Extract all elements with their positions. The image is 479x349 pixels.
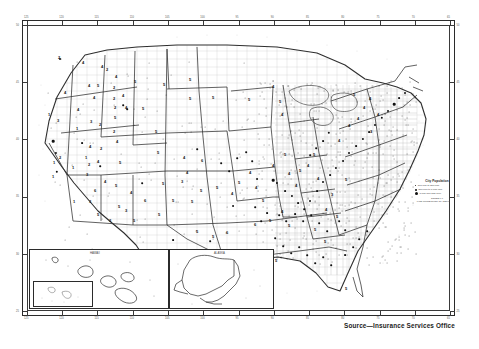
- city-population-dot: [76, 117, 77, 118]
- city-population-dot: [306, 189, 307, 190]
- city-population-dot: [266, 108, 267, 109]
- city-population-dot: [362, 198, 363, 199]
- zone-number: 4: [231, 192, 233, 196]
- legend-box: City Population 100,000 to 500,000 500,0…: [415, 179, 450, 213]
- city-population-dot: [405, 201, 406, 202]
- city-population-dot: [371, 194, 372, 195]
- city-population-dot: [335, 101, 336, 102]
- zone-number: 3: [89, 200, 91, 204]
- city-population-dot: [387, 136, 388, 137]
- city-population-dot: [391, 135, 392, 136]
- zone-number: 5: [212, 96, 214, 100]
- city-population-dot: [381, 95, 382, 96]
- legend-label-large: 1,000,000 and over: [419, 192, 441, 195]
- city-population-dot: [251, 160, 253, 162]
- city-population-dot: [404, 92, 406, 94]
- city-population-dot: [272, 80, 273, 81]
- city-population-dot: [308, 204, 309, 205]
- city-population-dot: [226, 232, 227, 233]
- city-population-dot: [278, 214, 280, 216]
- graticule-label-top-2: 115: [95, 16, 99, 19]
- city-population-dot: [327, 243, 328, 244]
- city-population-dot: [272, 179, 275, 182]
- city-population-dot: [321, 216, 322, 217]
- city-population-dot: [291, 130, 292, 131]
- city-population-dot: [290, 179, 291, 180]
- city-population-dot: [382, 206, 383, 207]
- city-population-dot: [283, 182, 284, 183]
- city-population-dot: [332, 197, 333, 198]
- zone-number: 5: [157, 151, 159, 155]
- city-population-dot: [350, 181, 351, 182]
- city-population-dot: [258, 160, 259, 161]
- city-population-dot: [306, 143, 307, 144]
- graticule-label-top-1: 120: [59, 16, 63, 19]
- city-population-dot: [375, 105, 376, 106]
- city-population-dot: [387, 242, 388, 243]
- city-population-dot: [133, 109, 134, 110]
- city-population-dot: [360, 85, 361, 86]
- city-population-dot: [281, 134, 282, 135]
- city-population-dot: [389, 130, 390, 131]
- city-population-dot: [384, 121, 385, 122]
- city-population-dot: [382, 115, 383, 116]
- city-population-dot: [367, 125, 368, 126]
- city-population-dot: [341, 117, 342, 118]
- city-population-dot: [83, 104, 84, 105]
- graticule-label-right-3: 35: [457, 195, 460, 198]
- city-population-dot: [370, 188, 371, 189]
- city-population-dot: [73, 132, 74, 133]
- graticule-label-bottom-1: 120: [59, 317, 63, 320]
- zone-number: 5: [172, 199, 174, 203]
- zone-number: 5: [269, 219, 271, 223]
- city-population-dot: [144, 117, 145, 118]
- city-population-dot: [287, 183, 288, 184]
- city-population-dot: [146, 77, 147, 78]
- city-population-dot: [300, 202, 301, 203]
- graticule-label-bottom-0: 125: [24, 317, 28, 320]
- zone-number: 4: [249, 171, 251, 175]
- city-population-dot: [373, 153, 374, 154]
- city-population-dot: [297, 202, 299, 204]
- city-population-dot: [326, 154, 327, 155]
- graticule-label-top-12: 65: [447, 16, 450, 19]
- city-population-dot: [276, 246, 277, 247]
- city-population-dot: [384, 141, 385, 142]
- city-population-dot: [191, 214, 192, 215]
- inset-hawaii-sub: [33, 281, 93, 307]
- city-population-dot: [277, 214, 278, 215]
- city-population-dot: [279, 239, 280, 240]
- city-population-dot: [325, 215, 326, 216]
- city-population-dot: [335, 248, 336, 249]
- city-population-dot: [294, 213, 296, 215]
- graticule-label-bottom-8: 85: [306, 317, 309, 320]
- city-population-dot: [236, 99, 237, 100]
- zone-number: 5: [345, 178, 347, 182]
- zone-number: 6: [144, 199, 146, 203]
- graticule-label-top-3: 110: [130, 16, 134, 19]
- city-population-dot: [274, 237, 276, 239]
- inset-alaska: ALASKA: [169, 249, 274, 309]
- city-population-dot: [213, 216, 214, 217]
- city-population-dot: [219, 159, 220, 160]
- city-population-dot: [295, 205, 296, 206]
- zone-number: 4: [82, 61, 84, 65]
- city-population-dot: [367, 248, 368, 249]
- city-population-dot: [309, 184, 310, 185]
- city-population-dot: [407, 169, 408, 170]
- city-population-dot: [346, 138, 347, 139]
- city-population-dot: [184, 133, 185, 134]
- city-population-dot: [241, 190, 242, 191]
- city-population-dot: [303, 214, 304, 215]
- zone-number: 1: [72, 166, 74, 170]
- city-population-dot: [407, 248, 408, 249]
- city-population-dot: [339, 151, 340, 152]
- city-population-dot: [221, 182, 222, 183]
- city-population-dot: [365, 100, 366, 101]
- zone-number: 5: [142, 107, 144, 111]
- graticule-label-bottom-10: 75: [377, 317, 380, 320]
- city-population-dot: [133, 125, 134, 126]
- city-population-dot: [241, 126, 242, 127]
- zone-number: 5: [345, 287, 347, 291]
- zone-number: 4: [104, 180, 106, 184]
